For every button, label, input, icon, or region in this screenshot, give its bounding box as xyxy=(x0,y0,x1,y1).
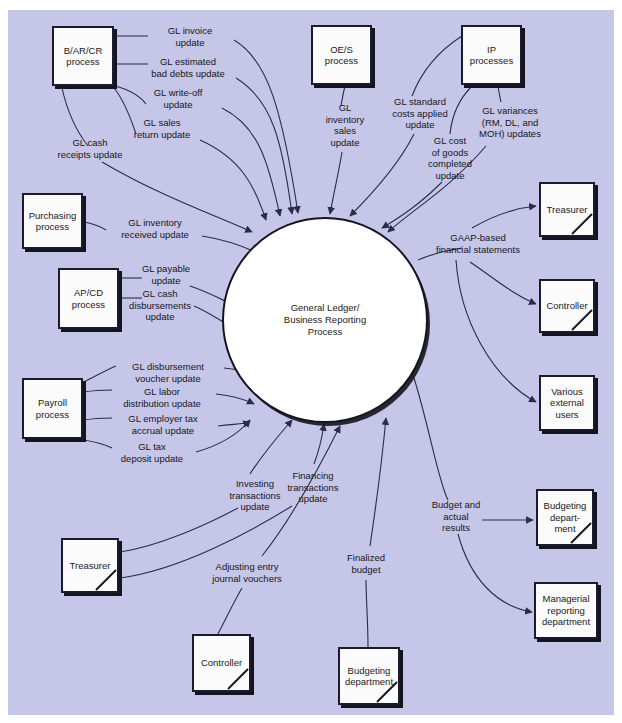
entity-budgeting-department-bottom[interactable]: Budgeting department xyxy=(338,647,400,705)
entity-label: Controller xyxy=(199,657,244,669)
entity-treasurer-left[interactable]: Treasurer xyxy=(61,538,119,593)
process-bubble[interactable]: General Ledger/ Business Reporting Proce… xyxy=(222,217,428,423)
page-header-fragment xyxy=(0,0,622,10)
entity-corner-slash-icon xyxy=(227,668,249,690)
entity-treasurer-right[interactable]: Treasurer xyxy=(539,182,595,237)
entity-label: Budgeting depart- ment xyxy=(542,500,589,535)
entity-label: Controller xyxy=(544,300,589,312)
entity-label: OE/S process xyxy=(323,44,360,67)
entity-label: Budgeting department xyxy=(343,665,395,688)
entity-label: B/AR/CR process xyxy=(62,45,105,68)
entity-controller-right[interactable]: Controller xyxy=(539,279,595,333)
entity-budgeting-department-right[interactable]: Budgeting depart- ment xyxy=(536,489,594,546)
entity-label: Purchasing process xyxy=(27,210,79,233)
entity-corner-slash-icon xyxy=(571,309,593,331)
entity-corner-slash-icon xyxy=(95,569,117,591)
entity-label: Various external users xyxy=(548,386,586,421)
entity-ip-processes[interactable]: IP processes xyxy=(461,25,522,85)
entity-corner-slash-icon xyxy=(571,213,593,235)
entity-managerial-reporting-department[interactable]: Managerial reporting department xyxy=(534,582,598,639)
process-label: General Ledger/ Business Reporting Proce… xyxy=(284,302,366,338)
entity-label: Treasurer xyxy=(68,560,113,572)
entity-label: IP processes xyxy=(468,44,515,67)
entity-label: Treasurer xyxy=(545,204,590,216)
entity-label: Managerial reporting department xyxy=(540,593,592,628)
entity-various-external-users[interactable]: Various external users xyxy=(539,375,595,431)
entity-ap-cd-process[interactable]: AP/CD process xyxy=(58,268,119,329)
entity-payroll-process[interactable]: Payroll process xyxy=(22,378,83,439)
data-flow-diagram: General Ledger/ Business Reporting Proce… xyxy=(0,0,622,723)
entity-label: AP/CD process xyxy=(70,287,107,310)
entity-controller-bottom[interactable]: Controller xyxy=(192,634,251,692)
entity-oe-s-process[interactable]: OE/S process xyxy=(311,25,372,85)
entity-purchasing-process[interactable]: Purchasing process xyxy=(22,193,83,249)
entity-label: Payroll process xyxy=(34,397,71,420)
entity-bar-cr-process[interactable]: B/AR/CR process xyxy=(52,26,114,86)
